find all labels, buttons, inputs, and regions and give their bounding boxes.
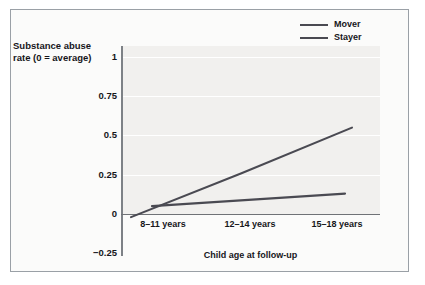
y-tick-label-1: 1 [71,52,117,62]
legend-item-stayer: Stayer [300,31,400,44]
gridline-025 [121,175,380,176]
y-tick-label-05: 0.5 [71,130,117,140]
legend-item-mover: Mover [300,18,400,31]
y-tick-label-neg025: −0.25 [71,248,117,258]
gridline-1 [121,57,380,58]
x-tick-label-3: 15–18 years [311,219,362,229]
chart-legend: Mover Stayer [300,18,400,44]
legend-label-stayer: Stayer [334,31,362,44]
y-tick-label-025: 0.25 [71,170,117,180]
zero-baseline [121,214,380,215]
y-axis-ticks: 1 0.75 0.5 0.25 0 −0.25 [69,0,117,285]
y-axis-line [121,46,123,256]
legend-label-mover: Mover [334,18,361,31]
chart-figure: Substance abuse rate (0 = average) 1 0.7… [0,0,425,285]
x-tick-label-1: 8–11 years [140,219,186,229]
x-tick-label-2: 12–14 years [224,219,275,229]
x-axis-title: Child age at follow-up [121,250,380,260]
legend-swatch-mover [300,24,328,26]
gridline-075 [121,96,380,97]
gridline-05 [121,135,380,136]
y-tick-label-075: 0.75 [71,91,117,101]
legend-swatch-stayer [300,37,328,39]
y-tick-label-0: 0 [71,209,117,219]
plot-area [121,46,380,214]
